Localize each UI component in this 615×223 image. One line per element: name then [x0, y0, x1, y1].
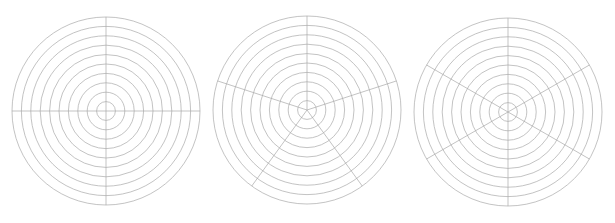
grid-spoke-150deg: [427, 65, 508, 112]
polar-grid-set: [0, 0, 615, 223]
grid-spoke-210deg: [427, 112, 508, 159]
polar-grid-6-spokes: [0, 0, 615, 223]
polar-chart-panel-3: [0, 0, 615, 223]
grid-spoke-30deg: [508, 65, 589, 112]
grid-spoke-330deg: [508, 112, 589, 159]
